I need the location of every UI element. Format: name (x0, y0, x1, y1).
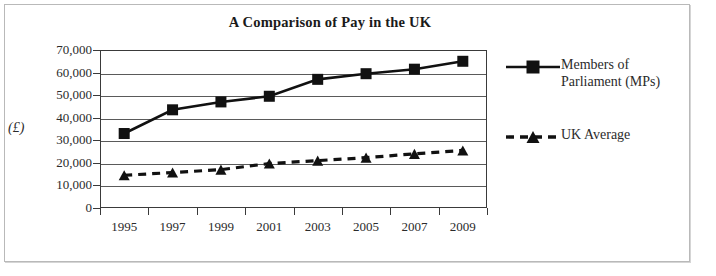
x-axis-tick-label: 2003 (305, 219, 331, 235)
x-axis-tick-mark (294, 208, 295, 215)
y-axis-tick-mark (93, 208, 100, 209)
legend-square-marker-icon (505, 57, 561, 77)
data-point-marker-square (527, 61, 540, 74)
y-axis-tick-mark (93, 118, 100, 119)
y-axis-tick-label: 0 (24, 200, 92, 216)
x-axis-tick-label: 2005 (353, 219, 379, 235)
legend-item-1[interactable]: Members of Parliament (MPs) (505, 56, 660, 90)
plot-area (100, 50, 487, 208)
legend-label: Members of Parliament (MPs) (561, 56, 660, 90)
x-axis-tick-label: 2007 (401, 219, 427, 235)
legend-item-2[interactable]: UK Average (505, 126, 630, 147)
x-axis-tick-label: 1999 (208, 219, 234, 235)
x-axis-tick-label: 2009 (450, 219, 476, 235)
y-axis-tick-label: 50,000 (24, 87, 92, 103)
legend-triangle-marker-icon (505, 127, 561, 147)
y-axis-tick-label: 70,000 (24, 42, 92, 58)
y-axis-tick-mark (93, 185, 100, 186)
y-axis-tick-label: 40,000 (24, 110, 92, 126)
y-axis-tick-label: 20,000 (24, 155, 92, 171)
gridline (101, 74, 486, 75)
y-axis-tick-label: 60,000 (24, 65, 92, 81)
y-axis-tick-mark (93, 163, 100, 164)
y-axis-tick-mark (93, 73, 100, 74)
x-axis-tick-label: 1997 (160, 219, 186, 235)
chart-title: A Comparison of Pay in the UK (0, 14, 660, 31)
x-axis-tick-mark (439, 208, 440, 215)
y-axis-tick-mark (93, 140, 100, 141)
x-axis-tick-mark (100, 208, 101, 215)
gridline (101, 119, 486, 120)
chart-page: A Comparison of Pay in the UK (£) 010,00… (0, 0, 716, 276)
gridline (101, 186, 486, 187)
y-axis-unit-label: (£) (8, 120, 24, 136)
x-axis-tick-mark (245, 208, 246, 215)
y-axis-tick-labels: 010,00020,00030,00040,00050,00060,00070,… (24, 50, 92, 208)
x-axis-tick-mark (390, 208, 391, 215)
x-axis-tick-mark (197, 208, 198, 215)
x-axis-tick-label: 2001 (256, 219, 282, 235)
y-axis-tick-mark (93, 95, 100, 96)
gridline (101, 164, 486, 165)
gridline (101, 141, 486, 142)
x-axis-tick-mark (148, 208, 149, 215)
x-axis-tick-label: 1995 (111, 219, 137, 235)
y-axis-tick-mark (93, 50, 100, 51)
x-axis-tick-mark (487, 208, 488, 215)
x-axis-tick-mark (342, 208, 343, 215)
gridline (101, 96, 486, 97)
y-axis-tick-label: 30,000 (24, 132, 92, 148)
y-axis-tick-label: 10,000 (24, 177, 92, 193)
legend-label: UK Average (561, 126, 630, 143)
